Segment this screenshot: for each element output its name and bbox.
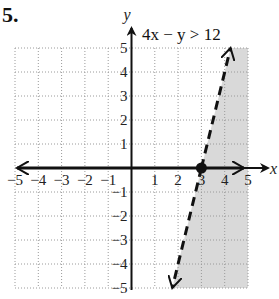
x-tick-label: −4 — [30, 172, 46, 188]
x-tick-label: 2 — [174, 172, 182, 188]
y-tick-label: 4 — [120, 64, 128, 80]
y-tick-label: −3 — [112, 232, 128, 248]
x-tick-label: −5 — [7, 172, 23, 188]
x-tick-label: 1 — [151, 172, 159, 188]
y-axis-label: y — [122, 6, 132, 24]
y-tick-label: −1 — [112, 184, 128, 200]
y-tick-label: 3 — [120, 88, 128, 104]
y-tick-label: −5 — [112, 280, 128, 296]
y-tick-label: 2 — [120, 112, 128, 128]
x-tick-label: −3 — [54, 172, 70, 188]
inequality-title: 4x − y > 12 — [142, 25, 221, 44]
y-tick-label: 1 — [120, 136, 128, 152]
y-tick-label: 5 — [120, 40, 128, 56]
x-axis-label: x — [269, 160, 277, 177]
x-tick-label: −2 — [77, 172, 93, 188]
y-tick-label: −2 — [112, 208, 128, 224]
x-tick-label: 5 — [244, 172, 252, 188]
x-tick-label: 4 — [221, 172, 229, 188]
inequality-graph: xy−5−4−3−2−11234554321−1−2−3−4−54x − y >… — [0, 0, 279, 299]
y-tick-label: −4 — [112, 256, 128, 272]
x-tick-label: 3 — [198, 172, 206, 188]
